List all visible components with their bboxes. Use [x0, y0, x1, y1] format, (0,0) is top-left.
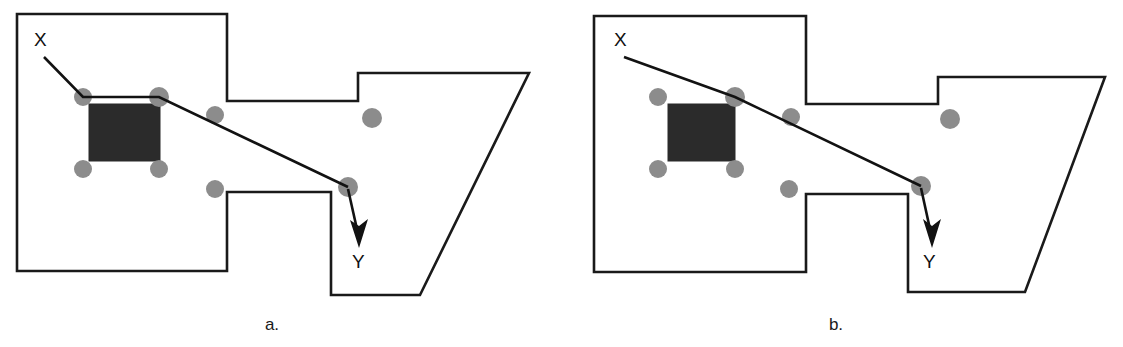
dot-square-bottom-left[interactable]	[74, 160, 92, 178]
obstacle-square-b	[668, 104, 735, 161]
dot-corridor-lower[interactable]	[780, 180, 798, 198]
panel-b-svg: X Y b.	[562, 0, 1123, 347]
panel-a-svg: X Y a.	[0, 0, 561, 347]
dot-square-bottom-right[interactable]	[726, 160, 744, 178]
panel-caption-a: a.	[265, 315, 279, 334]
panel-caption-b: b.	[829, 315, 843, 334]
end-label-y-a: Y	[352, 251, 365, 272]
dot-square-top-left[interactable]	[649, 88, 667, 106]
dot-right-room[interactable]	[940, 109, 960, 129]
start-label-x-a: X	[34, 29, 47, 50]
dot-corridor-lower[interactable]	[206, 180, 224, 198]
obstacle-square-a	[89, 104, 160, 161]
dot-square-bottom-left[interactable]	[649, 160, 667, 178]
panel-a: X Y a.	[0, 0, 561, 347]
dot-square-bottom-right[interactable]	[150, 160, 168, 178]
end-label-y-b: Y	[923, 251, 936, 272]
dot-right-room[interactable]	[362, 108, 382, 128]
panel-b: X Y b.	[562, 0, 1123, 347]
start-label-x-b: X	[614, 29, 627, 50]
figure-container: X Y a. X Y b.	[0, 0, 1123, 347]
